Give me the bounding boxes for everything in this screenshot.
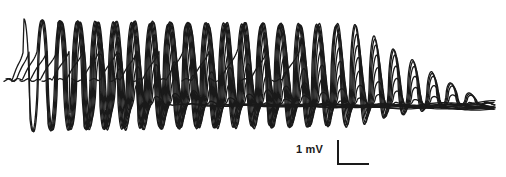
trace-overlay-plot [0,0,506,177]
scale-bar-horizontal [337,163,369,165]
scale-bar [337,140,369,165]
trace-lines [4,19,495,132]
electrophysiology-figure: 1 mV [0,0,506,177]
scale-bar-label: 1 mV [296,143,323,155]
scale-bar-vertical [337,140,339,165]
